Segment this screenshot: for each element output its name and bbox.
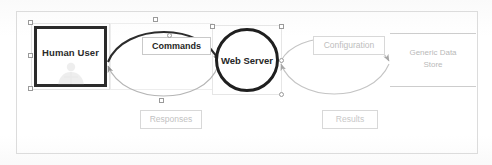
node-human-user-label: Human User — [37, 47, 104, 58]
person-icon — [54, 62, 88, 86]
edge-midpoint-handle-commands[interactable] — [167, 33, 172, 38]
node-generic-data-store[interactable]: Generic Data Store — [390, 33, 476, 87]
resize-handle-nw[interactable] — [28, 20, 33, 25]
data-store-label-line2: Store — [390, 59, 476, 71]
edge-label-responses[interactable]: Responses — [140, 110, 202, 129]
node-web-server-label: Web Server — [212, 55, 282, 66]
node-human-user[interactable]: Human User — [34, 26, 107, 87]
resize-handle-w[interactable] — [28, 53, 33, 58]
edge-label-configuration[interactable]: Configuration — [313, 36, 385, 55]
diagram-canvas[interactable]: Human User Web Server Generic Data Store… — [0, 0, 492, 165]
data-store-label-line1: Generic Data — [390, 47, 476, 59]
edge-handle-commands-top[interactable] — [153, 17, 158, 22]
data-store-top-bar — [390, 33, 476, 34]
edge-label-commands[interactable]: Commands — [142, 37, 211, 55]
edge-label-configuration-text: Configuration — [324, 41, 375, 50]
node-web-server[interactable]: Web Server — [215, 28, 279, 92]
edge-results-path[interactable] — [281, 64, 389, 94]
resize-handle-web-server-nw[interactable] — [210, 24, 215, 29]
resize-handle-web-server-se[interactable] — [279, 92, 284, 97]
data-store-bottom-bar — [390, 86, 476, 87]
edge-label-results-text: Results — [336, 115, 364, 124]
resize-handle-web-server-e[interactable] — [279, 58, 284, 63]
edge-label-commands-text: Commands — [152, 42, 201, 51]
edge-midpoint-handle-responses[interactable] — [159, 98, 164, 103]
resize-handle-sw[interactable] — [28, 86, 33, 91]
edge-label-results[interactable]: Results — [322, 110, 378, 129]
node-generic-data-store-label: Generic Data Store — [390, 47, 476, 71]
edge-responses-path[interactable] — [108, 66, 218, 96]
resize-handle-web-server-ne[interactable] — [279, 24, 284, 29]
edge-label-responses-text: Responses — [150, 115, 193, 124]
